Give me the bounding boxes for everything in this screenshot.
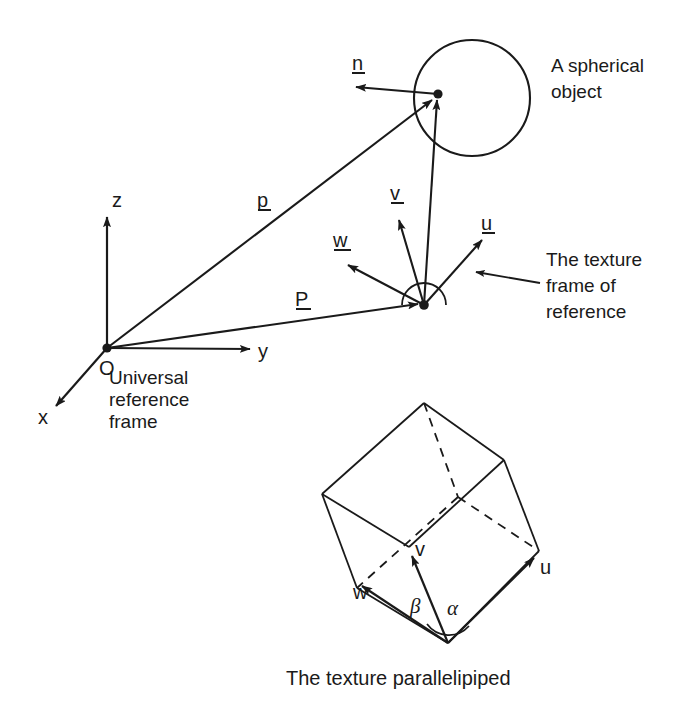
parallelipiped-hidden-edge-vertical xyxy=(424,403,458,497)
label-axis-y: y xyxy=(258,340,268,362)
parallelipiped-edge-top-right xyxy=(424,403,504,460)
normal-vector-n-arrow xyxy=(356,87,438,94)
texture-frame-leader-arrow xyxy=(476,272,540,283)
label-vector-v: v xyxy=(390,182,400,204)
label-angle-alpha: α xyxy=(447,596,459,620)
label-spherical-object-line1: A spherical xyxy=(551,55,644,76)
label-texture-frame-line1: The texture xyxy=(546,249,642,270)
parallelipiped-vector-u-arrow xyxy=(448,558,534,643)
label-parallelipiped-u: u xyxy=(540,556,551,578)
label-vector-p-lower: p xyxy=(257,189,268,211)
label-parallelipiped-v: v xyxy=(415,538,425,560)
label-vector-P-upper: P xyxy=(295,288,308,310)
parallelipiped-hidden-edge-right xyxy=(458,497,539,551)
label-texture-frame-line2: frame of xyxy=(546,275,616,296)
parallelipiped-edge-top-left xyxy=(322,403,424,494)
label-parallelipiped-w: w xyxy=(352,581,368,603)
label-axis-z: z xyxy=(112,189,122,211)
label-vector-w: w xyxy=(332,229,348,251)
label-vector-u: u xyxy=(481,212,492,234)
label-parallelipiped-caption: The texture parallelipiped xyxy=(286,667,511,689)
label-normal-n: n xyxy=(352,52,363,74)
label-universal-frame-line1: Universal xyxy=(109,367,188,388)
parallelipiped-hidden-edge-left xyxy=(357,497,458,588)
label-texture-frame-line3: reference xyxy=(546,301,626,322)
label-spherical-object-line2: object xyxy=(551,81,602,102)
spherical-object-circle xyxy=(414,40,530,156)
texture-frame-origin-dot xyxy=(419,300,429,310)
vector-u-arrow xyxy=(424,240,482,305)
vector-p-arrow xyxy=(107,100,432,348)
technical-diagram-svg: n z y x O Universal reference frame p P … xyxy=(0,0,682,706)
parallelipiped-edge-right-vert xyxy=(504,460,539,551)
texture-origin-to-surface-line xyxy=(424,100,437,305)
vector-v-arrow xyxy=(399,220,424,305)
vector-w-arrow xyxy=(348,265,424,305)
label-universal-frame-line3: frame xyxy=(109,411,158,432)
parallelipiped-edge-mid-right xyxy=(409,460,504,547)
y-axis-arrow xyxy=(107,348,250,349)
label-angle-beta: β xyxy=(409,594,421,618)
label-axis-x: x xyxy=(38,406,48,428)
diagram-root: n z y x O Universal reference frame p P … xyxy=(0,0,682,706)
parallelipiped-edge-left-vert xyxy=(322,494,357,588)
parallelipiped-edge-mid-left xyxy=(322,494,409,547)
label-universal-frame-line2: reference xyxy=(109,389,189,410)
